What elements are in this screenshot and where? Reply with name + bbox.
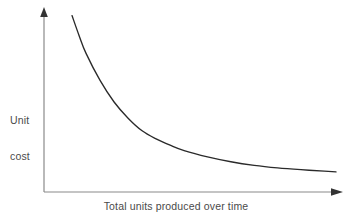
y-axis-label-line-2: cost [10, 150, 30, 162]
y-axis-arrowhead [40, 7, 48, 17]
experience-curve-figure: Unit cost Total units produced over time [0, 0, 352, 220]
x-axis-label: Total units produced over time [0, 200, 352, 212]
y-axis-label-line-1: Unit [10, 114, 30, 126]
chart-plot-area [0, 0, 352, 220]
unit-cost-curve [72, 16, 336, 172]
y-axis-label: Unit cost [10, 90, 30, 186]
x-axis-arrowhead [331, 188, 343, 196]
